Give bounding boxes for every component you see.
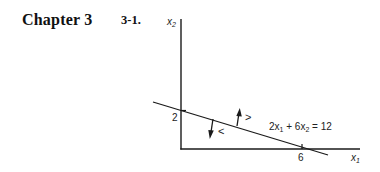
y-intercept-label: 2 <box>172 112 178 123</box>
arrow-down-icon <box>208 119 214 139</box>
y-axis-label: x2 <box>166 16 176 28</box>
less-than-label: < <box>218 125 224 137</box>
arrow-up-icon <box>236 108 242 126</box>
x-axis-label: x1 <box>350 152 360 164</box>
constraint-equation: 2x1 + 6x2 = 12 <box>269 121 332 133</box>
constraint-diagram: x2 x1 2 6 > < 2x1 + 6x2 = 12 <box>0 0 380 172</box>
x-intercept-label: 6 <box>298 152 304 163</box>
greater-than-label: > <box>245 111 251 123</box>
